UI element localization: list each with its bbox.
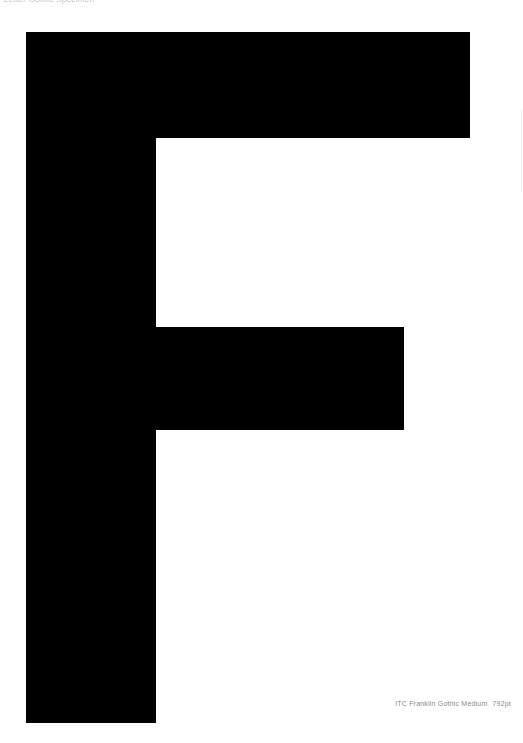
specimen-caption: ITC Franklin Gothic Medium792pt <box>395 700 511 707</box>
font-size-label: 792pt <box>492 700 511 707</box>
letter-f-middle-bar <box>156 327 404 430</box>
font-name-label: ITC Franklin Gothic Medium <box>395 700 487 707</box>
header-text: Letter Gothic Specimen <box>4 0 94 4</box>
page-edge-line <box>521 110 522 190</box>
letter-f-stem <box>26 32 156 723</box>
